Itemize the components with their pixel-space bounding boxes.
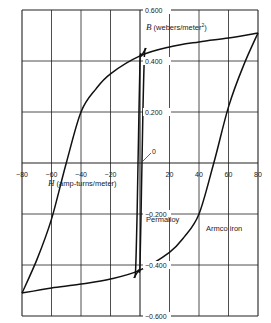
origin-leader-line: [143, 153, 151, 161]
x-tick-label: −20: [105, 171, 117, 178]
x-tick-label: −60: [46, 171, 58, 178]
armco-iron-label: Armco iron: [206, 224, 242, 233]
y-axis-title: B (webers/meter2): [146, 22, 207, 32]
y-tick-label: 0.200: [145, 109, 163, 116]
permalloy-label: Permalloy: [146, 215, 180, 224]
x-tick-label: −40: [75, 171, 87, 178]
y-tick-label: 0.600: [145, 7, 163, 14]
x-tick-label: 40: [195, 171, 203, 178]
x-tick-label: 20: [166, 171, 174, 178]
x-tick-label: 80: [254, 171, 262, 178]
x-tick-label: 60: [225, 171, 233, 178]
y-tick-label: 0.400: [145, 58, 163, 65]
hysteresis-chart: −80−60−40−20204060800.6000.4000.200−0.20…: [0, 0, 271, 323]
y-tick-label: −0.600: [145, 313, 167, 320]
x-tick-label: −80: [16, 171, 28, 178]
y-tick-label: −0.400: [145, 262, 167, 269]
x-axis-title: H (amp-turns/meter): [47, 178, 117, 188]
origin-label: 0: [152, 148, 156, 155]
